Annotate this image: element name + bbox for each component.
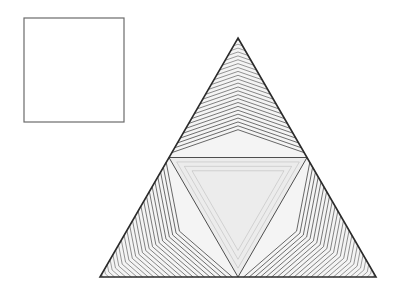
artwork-canvas (0, 0, 405, 299)
square-outline (24, 18, 124, 122)
empty-square (24, 18, 124, 122)
geometric-figure (0, 0, 405, 299)
